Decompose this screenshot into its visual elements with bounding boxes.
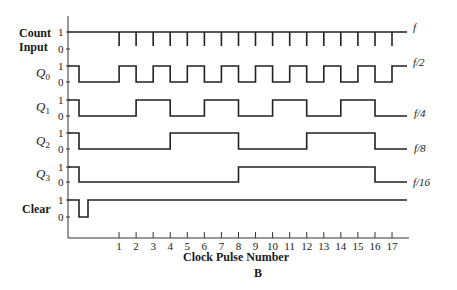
figure-caption: B (254, 266, 262, 280)
level-high-label: 1 (58, 60, 64, 72)
freq-label-f2: f/2 (413, 56, 425, 68)
label-q0: Q0 (36, 65, 50, 82)
label-q3: Q3 (36, 166, 50, 183)
freq-label-f4: f/4 (414, 107, 426, 119)
tick-label: 14 (335, 240, 347, 252)
waveform-q2 (68, 133, 407, 149)
tick-label: 1 (116, 240, 122, 252)
level-low-label: 0 (58, 211, 64, 223)
tick-label: 16 (369, 240, 381, 252)
freq-label-f: f (413, 21, 418, 33)
label-q1: Q1 (36, 99, 50, 116)
level-low-label: 0 (58, 110, 64, 122)
tick-label: 12 (301, 240, 312, 252)
tick-label: 15 (352, 240, 364, 252)
label-count: Count (19, 26, 51, 40)
freq-label-f8: f/8 (414, 142, 426, 154)
waveform-count (68, 32, 407, 46)
level-high-label: 1 (58, 161, 64, 173)
waveforms (68, 32, 407, 217)
level-high-label: 1 (58, 94, 64, 106)
level-high-label: 1 (58, 127, 64, 139)
label-q2: Q2 (36, 133, 50, 150)
level-low-label: 0 (58, 143, 64, 155)
tick-label: 13 (318, 240, 330, 252)
tick-label: 17 (387, 240, 399, 252)
label-clear: Clear (22, 202, 51, 216)
x-axis-label: Clock Pulse Number (183, 250, 290, 264)
tick-label: 4 (167, 240, 173, 252)
tick-label: 2 (133, 240, 139, 252)
level-high-label: 1 (58, 194, 64, 206)
label-input: Input (19, 40, 48, 54)
x-axis-ticks: 1234567891011121314151617 (116, 232, 398, 252)
level-low-label: 0 (58, 176, 64, 188)
freq-label-f16: f/16 (413, 176, 431, 188)
waveform-q3 (68, 167, 407, 182)
waveform-clear (68, 200, 407, 217)
tick-label: 3 (150, 240, 156, 252)
waveform-q0 (68, 66, 407, 82)
counter-timing-diagram: Count Input Q0 Q1 Q2 Q3 Clear 1010101010… (0, 0, 457, 290)
level-low-label: 0 (58, 76, 64, 88)
level-low-label: 0 (58, 43, 64, 55)
waveform-q1 (68, 100, 407, 116)
level-high-label: 1 (58, 26, 64, 38)
